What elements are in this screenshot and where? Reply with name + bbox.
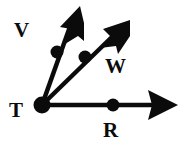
point-label-r: R [103, 120, 118, 141]
point-label-t: T [9, 100, 23, 121]
point-label-w: W [105, 56, 126, 77]
point-dot-t-vertex [34, 97, 51, 114]
geometry-diagram: V T W R [0, 0, 188, 152]
point-dot-r [107, 99, 120, 112]
point-label-v: V [14, 20, 29, 41]
point-dot-w [79, 51, 92, 64]
point-dot-v [51, 46, 64, 59]
